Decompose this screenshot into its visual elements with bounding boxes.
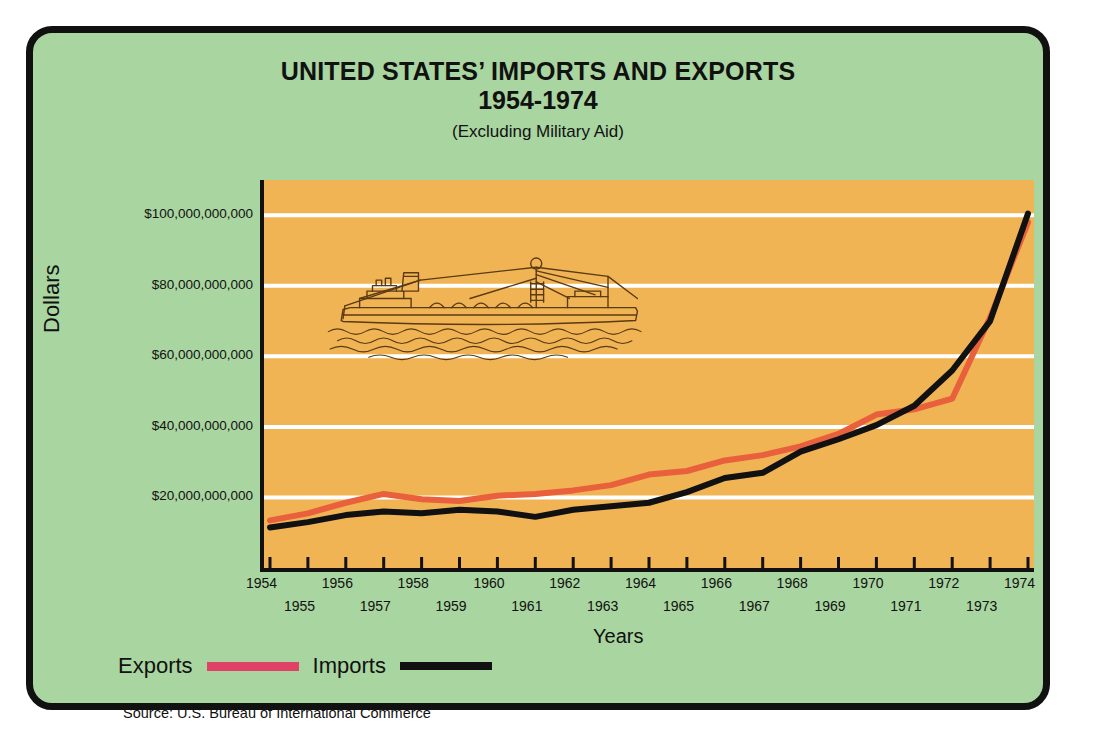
legend-swatch-imports [400,662,492,670]
chart-legend: Exports Imports [118,653,492,679]
legend-label-exports: Exports [118,653,193,679]
series-line-exports [270,222,1028,520]
x-tick-label: 1964 [625,575,656,591]
x-tick-label: 1967 [739,598,770,614]
page-title: UNITED STATES’ IMPORTS AND EXPORTS [33,57,1043,86]
plot-area [260,180,1034,572]
x-tick-label: 1970 [852,575,883,591]
title-block: UNITED STATES’ IMPORTS AND EXPORTS 1954-… [33,57,1043,142]
x-tick-label: 1963 [587,598,618,614]
x-axis-tick-marks [270,557,1028,568]
series-line-imports [270,214,1028,528]
x-tick-label: 1960 [473,575,504,591]
x-tick-label: 1968 [777,575,808,591]
legend-swatch-exports [207,662,299,671]
x-tick-label: 1973 [966,598,997,614]
title-year-range: 1954-1974 [33,86,1043,115]
x-tick-label: 1971 [890,598,921,614]
x-tick-label: 1974 [1004,575,1035,591]
chart-poster: UNITED STATES’ IMPORTS AND EXPORTS 1954-… [26,26,1050,710]
y-tick-label: $80,000,000,000 [152,277,253,292]
x-axis-label: Years [593,625,643,648]
x-tick-label: 1965 [663,598,694,614]
y-axis-label: Dollars [39,265,65,333]
y-tick-label: $100,000,000,000 [144,206,253,221]
x-axis-tick-labels: 1954195519561957195819591960196119621963… [260,573,1060,625]
x-tick-label: 1962 [549,575,580,591]
y-tick-label: $60,000,000,000 [152,347,253,362]
legend-label-imports: Imports [313,653,386,679]
x-tick-label: 1957 [360,598,391,614]
gridlines [264,215,1034,497]
x-tick-label: 1958 [398,575,429,591]
x-tick-label: 1969 [815,598,846,614]
source-note: Source: U.S. Bureau of International Com… [123,705,431,721]
x-tick-label: 1966 [701,575,732,591]
x-tick-label: 1972 [928,575,959,591]
y-axis-tick-labels: $100,000,000,000$80,000,000,000$60,000,0… [88,180,253,568]
y-tick-label: $20,000,000,000 [152,488,253,503]
x-tick-label: 1961 [511,598,542,614]
x-tick-label: 1959 [436,598,467,614]
x-tick-label: 1956 [322,575,353,591]
chart-canvas [264,180,1034,568]
x-tick-label: 1955 [284,598,315,614]
title-subtitle: (Excluding Military Aid) [33,122,1043,142]
x-tick-label: 1954 [246,575,277,591]
cargo-ship-illustration [328,258,641,360]
y-tick-label: $40,000,000,000 [152,418,253,433]
